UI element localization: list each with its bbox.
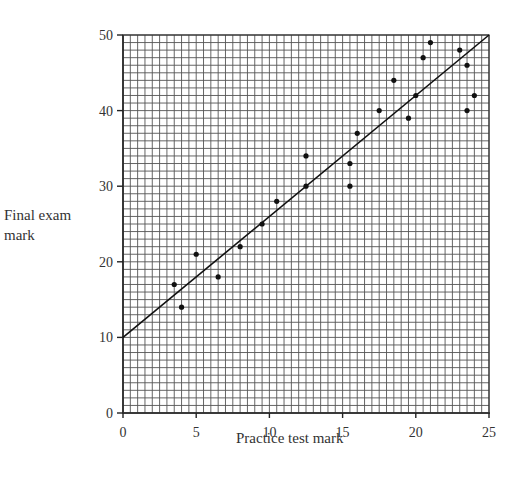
y-tick-label: 10 — [99, 330, 113, 345]
data-point — [303, 153, 308, 158]
y-tick-label: 20 — [99, 255, 113, 270]
x-axis-label: Practice test mark — [236, 428, 343, 448]
data-point — [464, 108, 469, 113]
data-point — [216, 274, 221, 279]
x-tick-label: 5 — [193, 425, 200, 440]
data-point — [238, 244, 243, 249]
data-point — [274, 199, 279, 204]
data-point — [172, 282, 177, 287]
y-axis-label-line2: mark — [4, 225, 114, 245]
y-tick-label: 50 — [99, 28, 113, 43]
y-axis-label-line1: Final exam — [4, 205, 114, 225]
grid — [123, 35, 489, 413]
data-point — [377, 108, 382, 113]
data-point — [194, 252, 199, 257]
data-point — [413, 93, 418, 98]
data-point — [179, 305, 184, 310]
y-tick-label: 0 — [106, 406, 113, 421]
x-tick-label: 0 — [120, 425, 127, 440]
tick-labels: 051015202501020304050 — [99, 28, 496, 440]
axes — [117, 35, 490, 418]
data-point — [391, 78, 396, 83]
data-point — [347, 161, 352, 166]
data-point — [472, 93, 477, 98]
data-point — [355, 131, 360, 136]
y-tick-label: 40 — [99, 104, 113, 119]
x-tick-label: 20 — [409, 425, 423, 440]
data-point — [421, 55, 426, 60]
data-point — [347, 184, 352, 189]
data-point — [406, 116, 411, 121]
y-axis-label: Final exam mark — [4, 205, 114, 245]
data-point — [259, 221, 264, 226]
x-tick-label: 25 — [482, 425, 496, 440]
y-tick-label: 30 — [99, 179, 113, 194]
data-point — [457, 48, 462, 53]
data-point — [303, 184, 308, 189]
data-point — [464, 63, 469, 68]
data-point — [428, 40, 433, 45]
